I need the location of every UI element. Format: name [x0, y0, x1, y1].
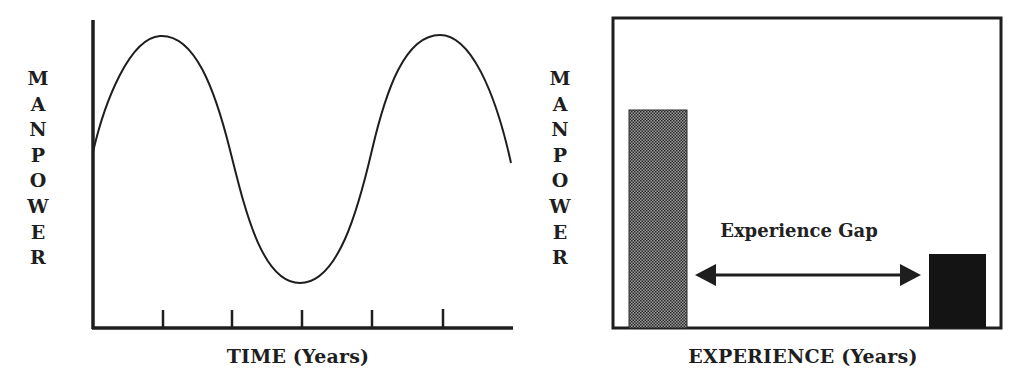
- high-experience-bar: [929, 254, 986, 328]
- arrow-right-head-icon: [900, 264, 921, 286]
- arrow-left-head-icon: [695, 264, 716, 286]
- experience-gap-arrow: [695, 264, 921, 286]
- time-chart-ticks: [163, 309, 443, 328]
- time-chart-panel: MANPOWER TIME (Years): [0, 0, 520, 391]
- experience-chart-x-axis-label: EXPERIENCE (Years): [688, 345, 917, 367]
- time-chart-x-axis-label: TIME (Years): [227, 345, 370, 367]
- time-chart-plot: [0, 0, 520, 391]
- low-experience-bar: [629, 110, 687, 328]
- experience-chart-plot: [520, 0, 1033, 391]
- experience-chart-panel: MANPOWER Experience Gap EXPERIENCE (Year…: [520, 0, 1033, 391]
- manpower-curve: [93, 35, 511, 283]
- experience-gap-label: Experience Gap: [720, 220, 878, 241]
